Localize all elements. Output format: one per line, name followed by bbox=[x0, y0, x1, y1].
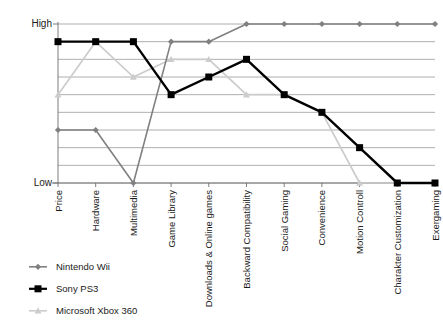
data-series-layer bbox=[55, 21, 439, 187]
square-marker bbox=[35, 285, 42, 292]
x-axis-category-label: Charakter Customization bbox=[392, 190, 403, 295]
x-axis-category-label: Motion Controll bbox=[354, 190, 365, 254]
square-marker bbox=[168, 91, 175, 98]
x-axis-category-label: Convenience bbox=[316, 190, 327, 245]
x-axis-category-label: Backward Compatibility bbox=[241, 190, 252, 289]
x-axis-category-label: Game Library bbox=[166, 190, 177, 248]
line-chart: High Low PriceHardwareMultimediaGame Lib… bbox=[0, 0, 443, 335]
square-marker bbox=[92, 38, 99, 45]
diamond-marker bbox=[55, 127, 61, 133]
axes-group bbox=[52, 22, 435, 183]
series-nintendo-wii bbox=[55, 21, 438, 186]
x-axis-category-label: Multimedia bbox=[128, 189, 139, 236]
legend-item-label: Microsoft Xbox 360 bbox=[56, 305, 137, 316]
diamond-marker bbox=[356, 21, 362, 27]
diamond-marker bbox=[243, 21, 249, 27]
legend-item[interactable]: Sony PS3 bbox=[29, 283, 98, 294]
chart-container: High Low PriceHardwareMultimediaGame Lib… bbox=[0, 0, 443, 335]
x-axis-category-label: Hardware bbox=[90, 190, 101, 231]
x-axis-category-label: Social Gaming bbox=[279, 190, 290, 252]
y-axis-high-label: High bbox=[31, 18, 52, 29]
square-marker bbox=[356, 144, 363, 151]
square-marker bbox=[55, 38, 62, 45]
legend-item[interactable]: Nintendo Wii bbox=[29, 261, 110, 272]
x-axis-category-label: Price bbox=[53, 190, 64, 212]
y-axis-low-label: Low bbox=[34, 177, 53, 188]
square-marker bbox=[130, 38, 137, 45]
square-marker bbox=[318, 109, 325, 116]
square-marker bbox=[243, 56, 250, 63]
diamond-marker bbox=[168, 39, 174, 45]
diamond-marker bbox=[432, 21, 438, 27]
legend-item-label: Nintendo Wii bbox=[56, 261, 110, 272]
x-axis-category-labels: PriceHardwareMultimediaGame LibraryDownl… bbox=[53, 189, 441, 307]
x-axis-category-label: Exergaming bbox=[430, 190, 441, 241]
chart-legend: Nintendo WiiSony PS3Microsoft Xbox 360 bbox=[29, 261, 137, 316]
legend-item-label: Sony PS3 bbox=[56, 283, 98, 294]
square-marker bbox=[281, 91, 288, 98]
square-marker bbox=[205, 74, 212, 81]
square-marker bbox=[432, 180, 439, 187]
diamond-marker bbox=[319, 21, 325, 27]
diamond-marker bbox=[206, 39, 212, 45]
square-marker bbox=[394, 180, 401, 187]
gridlines-group bbox=[58, 24, 435, 183]
legend-item[interactable]: Microsoft Xbox 360 bbox=[29, 305, 137, 316]
diamond-marker bbox=[35, 264, 41, 270]
diamond-marker bbox=[281, 21, 287, 27]
series-line bbox=[58, 24, 435, 183]
x-axis-category-label: Downloads & Online games bbox=[203, 190, 214, 307]
diamond-marker bbox=[394, 21, 400, 27]
